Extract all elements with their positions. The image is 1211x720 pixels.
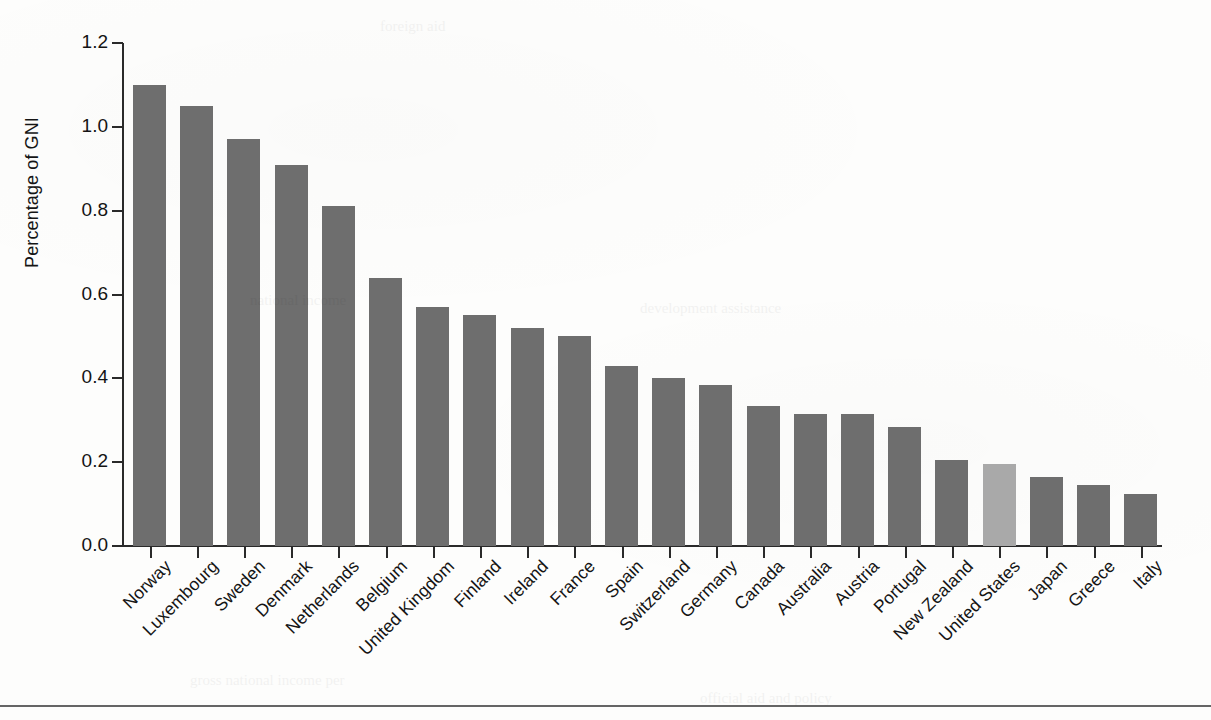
y-tick-mark: [112, 126, 123, 128]
bar-japan: [1030, 477, 1063, 546]
x-tick-mark: [574, 547, 576, 558]
y-tick-mark: [112, 210, 123, 212]
bar-finland: [463, 315, 496, 546]
y-tick-label: 0.4: [60, 366, 108, 388]
bar-switzerland: [652, 378, 685, 546]
x-label-ireland: Ireland: [500, 556, 553, 609]
y-tick-mark: [112, 461, 123, 463]
bar-germany: [699, 385, 732, 546]
x-tick-mark: [433, 547, 435, 558]
bar-italy: [1124, 494, 1157, 546]
y-tick-mark: [112, 42, 123, 44]
x-label-greece: Greece: [1063, 556, 1119, 612]
y-tick-label: 0.2: [60, 450, 108, 472]
bar-netherlands: [322, 206, 355, 546]
x-tick-mark: [716, 547, 718, 558]
bar-luxembourg: [180, 106, 213, 546]
x-tick-mark: [527, 547, 529, 558]
x-label-france: France: [546, 556, 600, 610]
x-tick-mark: [150, 547, 152, 558]
bar-portugal: [888, 427, 921, 546]
x-tick-mark: [858, 547, 860, 558]
y-tick-label: 0.6: [60, 283, 108, 305]
bar-spain: [605, 366, 638, 546]
x-tick-mark: [622, 547, 624, 558]
bar-new-zealand: [935, 460, 968, 546]
y-tick-mark: [112, 294, 123, 296]
x-tick-mark: [1094, 547, 1096, 558]
bar-australia: [794, 414, 827, 546]
bar-united-kingdom: [416, 307, 449, 546]
bar-belgium: [369, 278, 402, 546]
y-axis-label: Percentage of GNI: [22, 93, 43, 293]
x-tick-mark: [291, 547, 293, 558]
x-tick-mark: [480, 547, 482, 558]
bar-france: [558, 336, 591, 546]
x-tick-mark: [669, 547, 671, 558]
x-tick-mark: [338, 547, 340, 558]
y-tick-mark: [112, 545, 123, 547]
x-label-finland: Finland: [450, 556, 506, 612]
bar-greece: [1077, 485, 1110, 546]
y-tick-mark: [112, 377, 123, 379]
x-tick-mark: [197, 547, 199, 558]
bar-chart-figure: Percentage of GNI 0.00.20.40.60.81.01.2 …: [0, 0, 1211, 720]
bar-austria: [841, 414, 874, 546]
x-tick-mark: [810, 547, 812, 558]
x-tick-mark: [952, 547, 954, 558]
bar-united-states: [983, 464, 1016, 546]
y-tick-label: 0.0: [60, 534, 108, 556]
bar-norway: [133, 85, 166, 546]
bar-sweden: [227, 139, 260, 546]
page-bottom-rule: [0, 705, 1211, 707]
x-label-italy: Italy: [1129, 556, 1167, 594]
x-tick-mark: [905, 547, 907, 558]
bar-ireland: [511, 328, 544, 546]
y-tick-label: 1.2: [60, 31, 108, 53]
x-tick-mark: [244, 547, 246, 558]
y-tick-label: 0.8: [60, 199, 108, 221]
y-tick-label: 1.0: [60, 115, 108, 137]
bar-denmark: [275, 165, 308, 546]
x-tick-mark: [1046, 547, 1048, 558]
bar-canada: [747, 406, 780, 546]
x-tick-mark: [1141, 547, 1143, 558]
x-tick-mark: [999, 547, 1001, 558]
x-tick-mark: [763, 547, 765, 558]
x-tick-mark: [386, 547, 388, 558]
